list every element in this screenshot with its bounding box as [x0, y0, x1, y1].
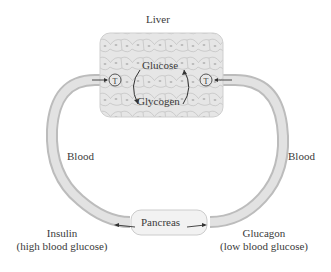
blood-label-right: Blood [288, 150, 315, 163]
glucagon-label: Glucagon (low blood glucose) [216, 227, 312, 253]
insulin-label: Insulin (high blood glucose) [12, 227, 112, 253]
svg-text:T: T [204, 77, 209, 86]
glucose-label: Glucose [142, 59, 178, 72]
blood-label-left: Blood [67, 150, 94, 163]
liver-label: Liver [146, 13, 170, 26]
insulin-name: Insulin [12, 227, 112, 240]
glucagon-name: Glucagon [216, 227, 312, 240]
pancreas-label: Pancreas [141, 216, 180, 229]
svg-text:T: T [113, 77, 118, 86]
insulin-condition: (high blood glucose) [12, 240, 112, 253]
glucagon-condition: (low blood glucose) [216, 240, 312, 253]
glycogen-label: Glycogen [137, 95, 180, 108]
